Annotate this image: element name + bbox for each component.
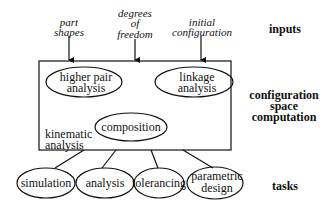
task-tolerancing: tolerancing xyxy=(132,168,186,198)
svg-text:analysis: analysis xyxy=(86,176,125,190)
connector-tolerancing xyxy=(151,150,158,168)
task-parametric-design: parametric design xyxy=(187,167,243,199)
svg-text:freedom: freedom xyxy=(117,28,153,40)
input-degrees-of-freedom: degrees of freedom xyxy=(117,7,153,40)
svg-text:tolerancing: tolerancing xyxy=(132,176,186,190)
svg-text:tasks: tasks xyxy=(272,179,298,193)
svg-text:computation: computation xyxy=(252,110,317,124)
connector-simulation xyxy=(55,150,84,168)
node-composition: composition xyxy=(95,113,167,141)
svg-text:analysis: analysis xyxy=(178,81,217,95)
svg-text:design: design xyxy=(201,181,232,195)
input-part-shapes: part shapes xyxy=(54,16,84,38)
node-linkage-analysis: linkage analysis xyxy=(155,67,233,97)
kinematic-analysis-label: kinematic analysis xyxy=(45,127,92,152)
row-label-inputs: inputs xyxy=(269,22,301,36)
input-initial-configuration: initial configuration xyxy=(172,16,232,38)
node-higher-pair-analysis: higher pair analysis xyxy=(46,67,122,97)
connector-parametric-design xyxy=(183,150,213,168)
svg-text:analysis: analysis xyxy=(67,81,106,95)
kinematic-analysis-diagram: part shapes degrees of freedom initial c… xyxy=(0,0,327,214)
svg-text:inputs: inputs xyxy=(269,22,301,36)
svg-text:simulation: simulation xyxy=(21,176,72,190)
row-label-tasks: tasks xyxy=(272,179,298,193)
svg-text:composition: composition xyxy=(101,120,160,134)
task-simulation: simulation xyxy=(17,168,75,198)
row-label-configuration-space-computation: configuration space computation xyxy=(249,88,319,124)
svg-text:configuration: configuration xyxy=(172,26,232,38)
connector-analysis xyxy=(102,150,116,168)
svg-text:analysis: analysis xyxy=(45,138,84,152)
task-analysis: analysis xyxy=(76,168,134,198)
